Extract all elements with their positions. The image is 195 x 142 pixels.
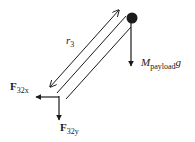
- payload-weight-label: Mpayloadg: [140, 56, 182, 71]
- r3-label: r3: [66, 34, 74, 49]
- r3-dimension-arrow: [50, 10, 119, 87]
- link-edge-lower: [66, 27, 131, 99]
- f32y-label: F32y: [60, 121, 79, 136]
- payload-mass-icon: [127, 13, 138, 24]
- f32x-label: F32x: [10, 80, 29, 95]
- link-3: [57, 16, 131, 99]
- link-edge-upper: [57, 16, 126, 93]
- free-body-diagram: r3 Mpayloadg F32x F32y: [0, 0, 195, 142]
